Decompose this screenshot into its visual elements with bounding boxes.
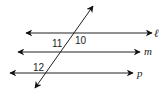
transversal-line [35,6,93,88]
angle-label-11: 11 [52,38,63,49]
line-m-label: m [144,45,152,57]
angle-label-12: 12 [33,62,45,73]
line-l-label: ℓ [154,27,159,39]
parallel-lines-diagram: ℓ m p 10 11 12 [0,0,166,96]
angle-label-10: 10 [75,35,87,46]
line-p-label: p [136,67,143,79]
